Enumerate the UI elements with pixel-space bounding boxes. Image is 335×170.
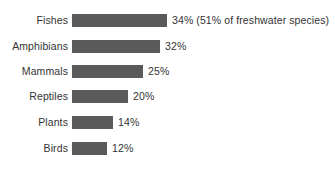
bar-birds bbox=[72, 142, 107, 155]
bar-track: 32% bbox=[72, 40, 335, 53]
bar-track: 34% (51% of freshwater species) bbox=[72, 14, 335, 27]
category-label: Mammals bbox=[0, 65, 68, 78]
value-label: 12% bbox=[112, 142, 133, 155]
bar-track: 14% bbox=[72, 116, 335, 129]
table-row: Birds 12% bbox=[0, 142, 335, 155]
table-row: Plants 14% bbox=[0, 116, 335, 129]
bar-track: 12% bbox=[72, 142, 335, 155]
bar-track: 20% bbox=[72, 90, 335, 103]
category-label: Amphibians bbox=[0, 40, 68, 53]
bar-plants bbox=[72, 116, 113, 129]
bar-reptiles bbox=[72, 90, 128, 103]
value-label: 20% bbox=[133, 90, 154, 103]
table-row: Amphibians 32% bbox=[0, 40, 335, 53]
value-label: 32% bbox=[165, 40, 186, 53]
bar-fishes bbox=[72, 14, 167, 27]
category-label: Birds bbox=[0, 142, 68, 155]
value-label: 14% bbox=[118, 116, 139, 129]
horizontal-bar-chart: Fishes 34% (51% of freshwater species) A… bbox=[0, 0, 335, 170]
bar-amphibians bbox=[72, 40, 160, 53]
bar-mammals bbox=[72, 65, 143, 78]
table-row: Reptiles 20% bbox=[0, 90, 335, 103]
value-label: 25% bbox=[148, 65, 169, 78]
category-label: Plants bbox=[0, 116, 68, 129]
category-label: Reptiles bbox=[0, 90, 68, 103]
table-row: Mammals 25% bbox=[0, 65, 335, 78]
category-label: Fishes bbox=[0, 14, 68, 27]
value-label: 34% (51% of freshwater species) bbox=[172, 14, 329, 27]
table-row: Fishes 34% (51% of freshwater species) bbox=[0, 14, 335, 27]
bar-track: 25% bbox=[72, 65, 335, 78]
